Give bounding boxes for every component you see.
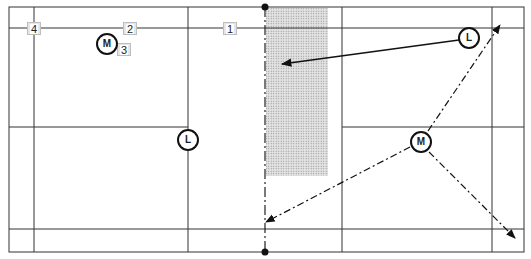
court-diagram <box>0 0 531 259</box>
player-marker-m-left: M <box>96 33 118 55</box>
player-marker-m-right: M <box>410 131 432 153</box>
position-box-3: 3 <box>117 43 131 56</box>
position-box-4: 4 <box>27 22 41 35</box>
net-post-bottom <box>262 249 269 256</box>
position-box-1: 1 <box>223 22 237 35</box>
player-marker-l-right: L <box>458 27 480 49</box>
shaded-zone <box>266 8 328 176</box>
player-marker-l-left: L <box>177 129 199 151</box>
arrow-dashed-down <box>429 152 515 238</box>
net-post-top <box>262 4 269 11</box>
position-box-2: 2 <box>123 22 137 35</box>
